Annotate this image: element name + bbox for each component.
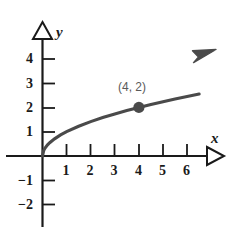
x-tick-label-2: 2 (87, 164, 94, 178)
plotted-point-4-2 (133, 102, 144, 113)
x-tick-label-3: 3 (111, 164, 118, 178)
x-tick-label-4: 4 (135, 164, 142, 178)
y-axis-label: y (56, 25, 63, 40)
y-tick-label-3: 3 (26, 77, 33, 91)
curve-arrowhead-icon (193, 50, 217, 63)
point-label-4-2: (4, 2) (118, 81, 146, 93)
y-tick-label-1: 1 (26, 125, 33, 139)
x-axis-ticks (67, 144, 188, 156)
y-axis-ticks (43, 59, 56, 205)
y-axis-arrowhead-icon (33, 22, 52, 39)
y-tick-label-2: 2 (26, 101, 33, 115)
y-tick-label-neg2: −2 (18, 198, 33, 212)
graph-figure: 4 3 2 1 −1 −2 1 2 3 4 5 6 y x (4, 2) (0, 0, 233, 227)
x-axis-arrowhead-icon (207, 147, 224, 165)
x-axis-label: x (211, 131, 219, 146)
coordinate-plane-svg (0, 0, 233, 227)
y-tick-label-neg1: −1 (18, 174, 33, 188)
y-tick-label-4: 4 (26, 52, 33, 66)
x-tick-label-5: 5 (159, 164, 166, 178)
x-tick-label-1: 1 (63, 164, 70, 178)
x-tick-label-6: 6 (183, 164, 190, 178)
